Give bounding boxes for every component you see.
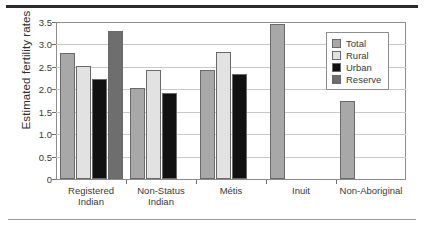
x-tick-mark	[196, 180, 197, 184]
bar-group	[126, 22, 196, 179]
bar-total	[130, 88, 145, 179]
y-tick-label: 3.0	[26, 39, 52, 50]
bar-total	[270, 24, 285, 179]
bar-group	[196, 22, 266, 179]
legend-swatch-icon	[332, 39, 341, 48]
legend-label: Urban	[346, 62, 372, 73]
legend-item-urban: Urban	[332, 61, 381, 73]
y-tick-label: 0	[26, 174, 52, 185]
bottom-divider-rule	[8, 219, 416, 220]
bar-urban	[232, 74, 247, 179]
legend-item-reserve: Reserve	[332, 73, 381, 85]
y-tick-label: 2.0	[26, 84, 52, 95]
x-axis-label: Métis	[196, 185, 266, 196]
figure-frame: Estimated fertility rates 00.51.01.52.02…	[0, 0, 424, 229]
legend-swatch-icon	[332, 51, 341, 60]
y-tick-label: 1.0	[26, 129, 52, 140]
y-tick-label: 1.5	[26, 106, 52, 117]
y-tick-label: 3.5	[26, 17, 52, 28]
x-axis-label: Non-Status Indian	[126, 185, 196, 207]
legend-label: Reserve	[346, 74, 381, 85]
grouped-bar-chart: Estimated fertility rates 00.51.01.52.02…	[0, 12, 424, 212]
x-axis-label: Inuit	[266, 185, 336, 196]
x-tick-mark	[336, 180, 337, 184]
bar-urban	[92, 79, 107, 179]
chart-legend: TotalRuralUrbanReserve	[326, 32, 389, 90]
legend-label: Rural	[346, 50, 369, 61]
bar-rural	[76, 66, 91, 179]
bar-total	[340, 101, 355, 179]
y-tick-label: 0.5	[26, 151, 52, 162]
bar-rural	[216, 52, 231, 179]
x-axis-label: Registered Indian	[56, 185, 126, 207]
x-tick-mark	[126, 180, 127, 184]
legend-swatch-icon	[332, 75, 341, 84]
legend-label: Total	[346, 38, 366, 49]
x-tick-mark	[266, 180, 267, 184]
y-tick-label: 2.5	[26, 61, 52, 72]
bar-urban	[162, 93, 177, 179]
legend-item-rural: Rural	[332, 49, 381, 61]
bar-total	[60, 53, 75, 179]
bar-rural	[146, 70, 161, 179]
bar-group	[56, 22, 126, 179]
legend-swatch-icon	[332, 63, 341, 72]
y-tick-mark	[52, 179, 56, 180]
bar-reserve	[108, 31, 123, 179]
legend-item-total: Total	[332, 37, 381, 49]
bar-total	[200, 70, 215, 179]
x-axis-label: Non-Aboriginal	[336, 185, 406, 196]
top-divider-rule	[6, 5, 418, 8]
